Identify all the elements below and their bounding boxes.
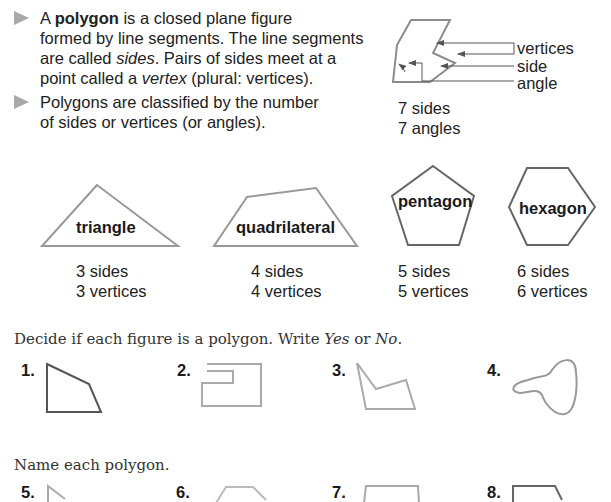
figure-6 <box>216 487 266 502</box>
figure-7 <box>364 486 419 502</box>
figure-5 <box>48 486 65 502</box>
figure-8 <box>513 486 562 502</box>
